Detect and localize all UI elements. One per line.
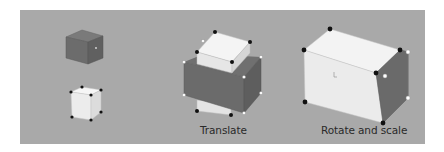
rotate-scale-label: Rotate and scale [321, 124, 407, 136]
white-box-original [69, 85, 102, 121]
transform-diagram: Translate Rotate and scale [0, 0, 444, 152]
translate-group [182, 30, 262, 117]
dark-box-original [66, 30, 103, 64]
rotate-scale-group [302, 27, 410, 126]
translate-label: Translate [200, 124, 247, 136]
